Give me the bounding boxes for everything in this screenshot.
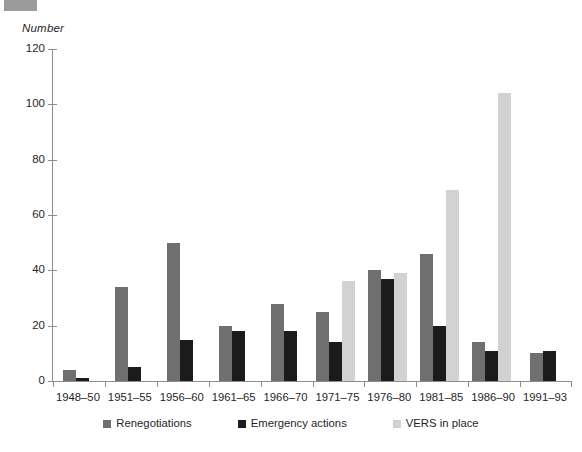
legend-label: VERS in place [406,418,479,429]
legend-item[interactable]: VERS in place [393,418,479,429]
y-axis-tick [48,49,57,50]
x-axis-line [52,381,571,382]
bar [498,93,511,381]
chart-figure: Number 020406080100120 1948–501951–55195… [0,0,582,452]
x-axis-tick-label: 1948–50 [56,392,100,403]
x-axis-tick [157,381,158,387]
bar [128,367,141,381]
legend-swatch-icon [103,420,111,428]
bar [284,331,297,381]
x-axis-tick [53,381,54,387]
y-axis-tick-label: 100 [26,99,45,111]
y-axis-title: Number [22,22,64,34]
bar [368,270,381,381]
legend-label: Emergency actions [251,418,347,429]
y-axis-tick-label: 120 [26,43,45,55]
chart-legend: RenegotiationsEmergency actionsVERS in p… [0,418,582,429]
x-axis-tick-label: 1956–60 [160,392,204,403]
bar [115,287,128,381]
x-axis-tick-label: 1951–55 [108,392,152,403]
legend-swatch-icon [238,420,246,428]
bar [530,353,543,381]
y-axis-tick-label: 0 [39,375,45,387]
x-axis-tick-label: 1981–85 [419,392,463,403]
bar [394,273,407,381]
x-axis-tick [520,381,521,387]
y-axis-tick-label: 60 [32,209,45,221]
legend-swatch-icon [393,420,401,428]
x-axis-tick [105,381,106,387]
bar [329,342,342,381]
x-axis-tick [364,381,365,387]
x-axis-tick [416,381,417,387]
y-axis-tick [48,104,57,105]
y-axis-tick [48,270,57,271]
legend-item[interactable]: Renegotiations [103,418,191,429]
x-axis-tick-label: 1966–70 [264,392,308,403]
x-axis-tick [571,381,572,387]
bar [446,190,459,381]
y-axis-tick [48,326,57,327]
y-axis-tick-label: 20 [32,320,45,332]
bar [433,326,446,381]
bar [342,281,355,381]
x-axis-tick-label: 1961–65 [212,392,256,403]
y-axis-tick-label: 80 [32,154,45,166]
x-axis-labels: 1948–501951–551956–601961–651966–701971–… [52,392,571,408]
y-axis-tick [48,215,57,216]
y-axis-tick-label: 40 [32,265,45,277]
x-axis-tick-label: 1976–80 [367,392,411,403]
x-axis-tick [261,381,262,387]
bar [167,243,180,381]
bar [381,279,394,381]
corner-marker [4,0,37,11]
x-axis-tick [209,381,210,387]
bar [485,351,498,381]
bar [180,340,193,382]
bar [63,370,76,381]
bar [271,304,284,381]
x-axis-tick-label: 1971–75 [315,392,359,403]
x-axis-tick [468,381,469,387]
bar [76,378,89,381]
bar [232,331,245,381]
bar [316,312,329,381]
legend-item[interactable]: Emergency actions [238,418,347,429]
plot-area: 020406080100120 [52,49,571,381]
bar [543,351,556,381]
legend-label: Renegotiations [116,418,191,429]
x-axis-tick [313,381,314,387]
bar [420,254,433,381]
bar [472,342,485,381]
x-axis-tick-label: 1991–93 [523,392,567,403]
y-axis-tick [48,160,57,161]
x-axis-tick-label: 1986–90 [471,392,515,403]
bar [219,326,232,381]
